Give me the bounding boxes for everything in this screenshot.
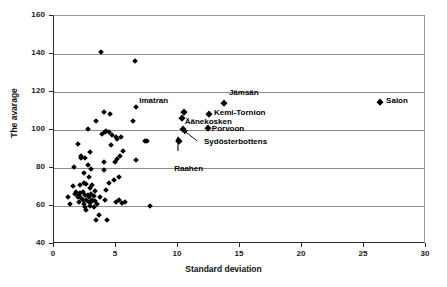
x-tick-label-20: 20: [286, 249, 316, 258]
x-tick-mark-10: [177, 243, 178, 247]
x-tick-label-25: 25: [348, 249, 378, 258]
data-point: [83, 208, 89, 214]
data-point: [121, 148, 127, 154]
y-tick-label-60: 60: [19, 200, 45, 209]
annotation-label-salon: Salon: [386, 96, 408, 105]
y-tick-label-100: 100: [19, 124, 45, 133]
data-point: [133, 104, 139, 110]
scatter-chart: The avarage 4060801001201401600510152025…: [0, 0, 447, 287]
data-point-kemi-tornion: [206, 110, 213, 117]
x-tick-label-10: 10: [162, 249, 192, 258]
data-point: [93, 118, 99, 124]
gridline-y-60: [54, 206, 424, 207]
data-point: [106, 180, 112, 186]
annotation-label-porvoon: Porvoon: [212, 124, 244, 133]
x-tick-mark-25: [363, 243, 364, 247]
data-point: [103, 187, 109, 193]
gridline-y-140: [54, 54, 424, 55]
data-point: [75, 141, 81, 147]
data-point: [132, 58, 138, 64]
x-tick-label-30: 30: [410, 249, 440, 258]
x-tick-mark-0: [53, 243, 54, 247]
x-tick-label-15: 15: [224, 249, 254, 258]
data-point: [88, 166, 94, 172]
y-tick-mark-120: [49, 91, 53, 92]
y-tick-label-140: 140: [19, 48, 45, 57]
y-tick-label-160: 160: [19, 10, 45, 19]
data-point: [104, 218, 110, 224]
x-tick-mark-20: [301, 243, 302, 247]
y-tick-label-120: 120: [19, 86, 45, 95]
y-tick-label-40: 40: [19, 238, 45, 247]
data-point-raahen: [176, 138, 183, 145]
data-point: [107, 111, 113, 117]
x-tick-mark-5: [115, 243, 116, 247]
y-tick-mark-80: [49, 167, 53, 168]
data-point: [65, 194, 71, 200]
data-point-salon: [377, 98, 384, 105]
data-point: [93, 217, 99, 223]
annotation-label-syd-sterbottens: Sydösterbottens: [204, 137, 267, 146]
x-tick-label-5: 5: [100, 249, 130, 258]
x-tick-mark-15: [239, 243, 240, 247]
data-point: [101, 159, 107, 165]
data-point: [70, 183, 76, 189]
data-point: [81, 170, 87, 176]
data-point-j-ms-n: [220, 100, 227, 107]
data-point: [147, 203, 153, 209]
data-point-syd-sterbottens: [180, 125, 187, 132]
x-tick-label-0: 0: [38, 249, 68, 258]
data-point: [82, 155, 88, 161]
y-tick-label-80: 80: [19, 162, 45, 171]
annotation-label-raahen: Raahen: [174, 164, 203, 173]
annotation-label-imatran: Imatran: [139, 96, 168, 105]
gridline-y-80: [54, 168, 424, 169]
data-point: [85, 126, 91, 132]
annotation-label-kemi-tornion: Kemi-Tornion: [214, 108, 265, 117]
y-tick-mark-60: [49, 205, 53, 206]
y-axis-title: The avarage: [9, 68, 19, 158]
data-point: [101, 109, 107, 115]
data-point: [108, 142, 114, 148]
data-point: [144, 138, 150, 144]
y-tick-mark-140: [49, 53, 53, 54]
data-point: [131, 118, 137, 124]
annotation-label-j-ms-n: Jämsän: [229, 88, 259, 97]
x-axis-title: Standard deviation: [0, 264, 447, 274]
data-point: [87, 150, 93, 156]
data-point: [133, 157, 139, 163]
data-point: [86, 174, 92, 180]
data-point: [102, 197, 108, 203]
y-tick-mark-160: [49, 15, 53, 16]
y-tick-mark-100: [49, 129, 53, 130]
x-tick-mark-30: [425, 243, 426, 247]
